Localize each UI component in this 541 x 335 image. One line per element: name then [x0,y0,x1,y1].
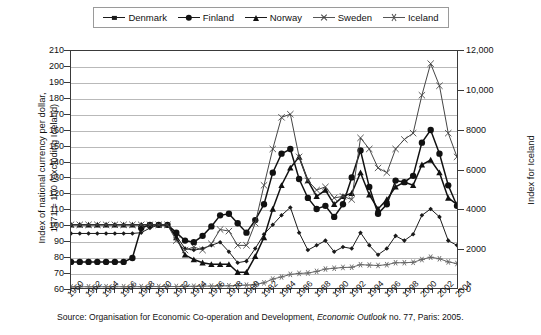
legend-marker-diamond-icon [103,13,125,23]
data-point [77,231,82,236]
data-point [252,253,258,259]
legend-label: Norway [270,12,302,23]
legend-item-denmark[interactable]: Denmark [103,12,167,23]
y-axis-tick-right: 12,000 [466,45,514,55]
data-point [199,233,205,239]
y-axis-tick-left: 150 [30,141,64,151]
series-norway [71,154,457,275]
data-point [208,223,214,229]
legend-marker-cross-icon [313,13,335,23]
legend-label: Iceland [408,12,439,23]
y-axis-tick-left: 210 [30,45,64,55]
data-point [297,230,302,235]
data-point [445,182,451,188]
series-finland [71,127,457,265]
legend-item-iceland[interactable]: Iceland [383,12,439,23]
y-axis-tick-right: 2000 [466,244,514,254]
legend-item-sweden[interactable]: Sweden [313,12,372,23]
data-point [71,231,73,236]
y-axis-tick-left: 200 [30,61,64,71]
y-axis-tick-right: 6000 [466,165,514,175]
y-axis-tick-left: 70 [30,268,64,278]
y-axis-tick-left: 80 [30,252,64,262]
data-point [270,169,276,175]
data-point [112,259,118,265]
data-point [130,231,135,236]
source-note: Source: Organisation for Economic Co-ope… [57,312,527,322]
data-point [392,177,398,183]
data-point [349,190,355,196]
data-point [226,211,232,217]
y-axis-tick-left: 160 [30,125,64,135]
data-point [182,237,188,243]
y-tick-mark-right [458,90,464,91]
series-line [71,64,457,251]
data-point [86,231,91,236]
data-point [419,162,425,168]
data-point [296,176,302,182]
right-axis-title-text: Index for Iceland [525,80,536,260]
data-point [261,201,267,207]
plot-area [70,50,458,289]
legend-label: Denmark [128,12,167,23]
y-tick-mark-right [458,130,464,131]
data-point [427,127,433,133]
data-point [94,259,100,265]
series-line [71,130,457,262]
data-point [340,201,346,207]
data-point [234,220,240,226]
source-italic: Economic Outlook [317,312,387,322]
data-point [191,256,197,262]
series-layer [71,51,457,288]
data-point [427,157,433,163]
data-point [129,255,135,261]
legend-item-norway[interactable]: Norway [245,12,302,23]
data-point [313,206,319,212]
data-point [357,169,363,175]
data-point [104,231,109,236]
data-point [322,203,328,209]
left-axis-title: Index of national currency per dollar, 1… [8,45,30,290]
y-tick-mark-right [458,209,464,210]
data-point [113,231,118,236]
data-point [410,173,416,179]
y-axis-tick-left: 140 [30,157,64,167]
y-axis-tick-right: 4000 [466,204,514,214]
chart-legend: DenmarkFinlandNorwaySwedenIceland [93,7,449,28]
data-point [445,195,451,201]
data-point [306,248,311,253]
data-point [243,230,249,236]
y-axis-tick-left: 130 [30,172,64,182]
data-point [419,139,425,145]
data-point [349,246,354,251]
y-tick-mark-right [458,249,464,250]
data-point [305,195,311,201]
y-axis-tick-left: 120 [30,188,64,198]
data-point [71,259,74,265]
series-line [71,157,457,272]
data-point [95,231,100,236]
data-point [341,245,346,250]
legend-label: Sweden [338,12,372,23]
y-axis-tick-left: 180 [30,93,64,103]
data-point [278,182,284,188]
legend-marker-triangle-icon [245,13,267,23]
y-axis-tick-right: 8000 [466,125,514,135]
y-axis-tick-left: 190 [30,77,64,87]
data-point [436,151,442,157]
y-axis-tick-left: 110 [30,204,64,214]
y-tick-mark-right [458,50,464,51]
data-point [287,146,293,152]
legend-marker-circle-icon [178,13,200,23]
legend-item-finland[interactable]: Finland [178,12,234,23]
data-point [331,214,337,220]
y-axis-tick-left: 100 [30,220,64,230]
data-point [349,174,355,180]
legend-marker-star-icon [383,13,405,23]
data-point [77,259,83,265]
data-point [103,259,109,265]
data-point [314,243,319,248]
data-point [446,238,451,243]
data-point [85,259,91,265]
source-suffix: no. 77, Paris: 2005. [387,312,464,322]
